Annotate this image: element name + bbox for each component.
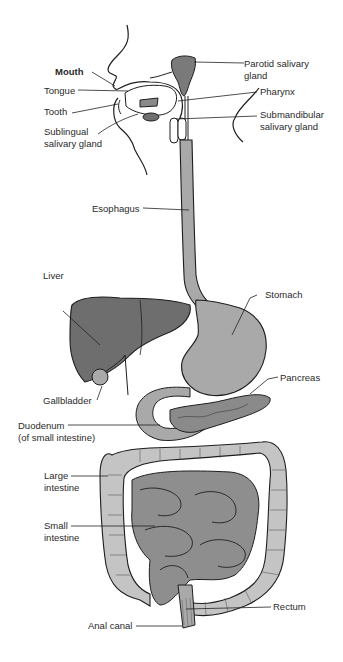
diagram-illustration: [0, 0, 343, 662]
label-tooth: Tooth: [44, 106, 67, 117]
label-sublingual-1: Sublingual: [44, 126, 88, 137]
label-rectum: Rectum: [273, 601, 306, 612]
label-pharynx: Pharynx: [260, 86, 295, 97]
label-mouth: Mouth: [55, 66, 84, 77]
label-gallbladder: Gallbladder: [43, 395, 92, 406]
stomach-shape: [182, 300, 267, 396]
parotid-gland: [171, 56, 195, 96]
label-parotid-2: gland: [244, 70, 267, 81]
esophagus-shape: [180, 140, 212, 310]
pancreas-shape: [170, 395, 270, 433]
label-esophagus: Esophagus: [92, 203, 140, 214]
digestive-system-diagram: Mouth Tongue Tooth Sublingual salivary g…: [0, 0, 343, 662]
label-small-intestine-1: Small: [44, 520, 68, 531]
label-tongue: Tongue: [44, 85, 75, 96]
small-intestine-shape: [132, 471, 259, 605]
label-anal-canal: Anal canal: [88, 620, 132, 631]
label-duodenum-1: Duodenum: [18, 420, 64, 431]
liver-shape: [70, 297, 190, 382]
label-large-intestine-2: intestine: [44, 482, 79, 493]
label-small-intestine-2: intestine: [44, 532, 79, 543]
label-submandibular-2: salivary gland: [260, 121, 318, 132]
label-stomach: Stomach: [265, 289, 303, 300]
label-sublingual-2: salivary gland: [44, 138, 102, 149]
label-submandibular-1: Submandibular: [260, 109, 324, 120]
label-pancreas: Pancreas: [280, 372, 320, 383]
label-liver: Liver: [43, 270, 64, 281]
label-large-intestine-1: Large: [44, 470, 68, 481]
label-duodenum-2: (of small intestine): [18, 432, 95, 443]
label-parotid-1: Parotid salivary: [244, 58, 309, 69]
